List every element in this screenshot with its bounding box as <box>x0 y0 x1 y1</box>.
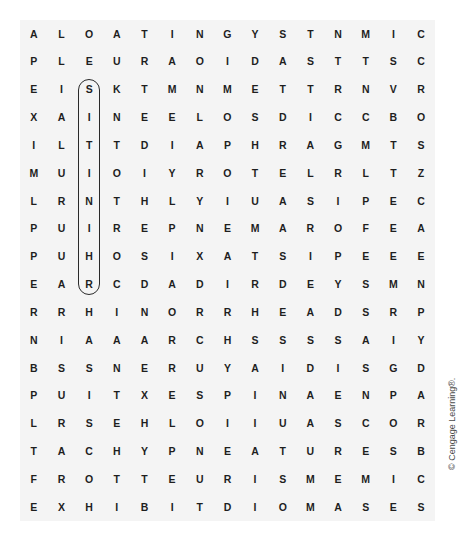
grid-letter[interactable]: U <box>241 187 269 215</box>
grid-letter[interactable]: O <box>186 48 214 76</box>
grid-letter[interactable]: O <box>407 103 435 131</box>
grid-letter[interactable]: R <box>324 76 352 104</box>
grid-letter[interactable]: P <box>352 187 380 215</box>
grid-letter[interactable]: A <box>214 243 242 271</box>
grid-letter[interactable]: X <box>131 382 159 410</box>
grid-letter[interactable]: H <box>241 298 269 326</box>
grid-letter[interactable]: N <box>103 103 131 131</box>
grid-letter[interactable]: R <box>297 215 325 243</box>
grid-letter[interactable]: S <box>352 354 380 382</box>
grid-letter[interactable]: G <box>380 354 408 382</box>
grid-letter[interactable]: M <box>380 270 408 298</box>
grid-letter[interactable]: B <box>20 354 48 382</box>
grid-letter[interactable]: A <box>324 493 352 521</box>
grid-letter[interactable]: S <box>297 187 325 215</box>
grid-letter[interactable]: R <box>158 354 186 382</box>
grid-letter[interactable]: E <box>380 187 408 215</box>
grid-letter[interactable]: R <box>48 298 76 326</box>
grid-letter[interactable]: A <box>158 270 186 298</box>
grid-letter[interactable]: E <box>158 465 186 493</box>
grid-letter[interactable]: R <box>324 159 352 187</box>
grid-letter[interactable]: N <box>103 354 131 382</box>
grid-letter[interactable]: R <box>269 131 297 159</box>
grid-letter[interactable]: E <box>324 465 352 493</box>
grid-letter[interactable]: I <box>75 215 103 243</box>
grid-letter[interactable]: P <box>20 243 48 271</box>
grid-letter[interactable]: A <box>297 131 325 159</box>
grid-letter[interactable]: T <box>75 131 103 159</box>
grid-letter[interactable]: E <box>131 215 159 243</box>
grid-letter[interactable]: C <box>407 48 435 76</box>
grid-letter[interactable]: E <box>407 243 435 271</box>
grid-letter[interactable]: E <box>269 159 297 187</box>
grid-letter[interactable]: I <box>103 493 131 521</box>
grid-letter[interactable]: T <box>20 437 48 465</box>
grid-letter[interactable]: R <box>214 298 242 326</box>
grid-letter[interactable]: R <box>407 76 435 104</box>
grid-letter[interactable]: M <box>20 159 48 187</box>
grid-letter[interactable]: R <box>214 465 242 493</box>
grid-letter[interactable]: T <box>131 20 159 48</box>
grid-letter[interactable]: T <box>269 76 297 104</box>
grid-letter[interactable]: I <box>324 354 352 382</box>
grid-letter[interactable]: T <box>186 493 214 521</box>
grid-letter[interactable]: T <box>352 48 380 76</box>
grid-letter[interactable]: R <box>380 298 408 326</box>
grid-letter[interactable]: C <box>75 437 103 465</box>
grid-letter[interactable]: Y <box>324 270 352 298</box>
grid-letter[interactable]: N <box>75 187 103 215</box>
grid-letter[interactable]: A <box>241 354 269 382</box>
grid-letter[interactable]: E <box>352 243 380 271</box>
grid-letter[interactable]: T <box>297 76 325 104</box>
grid-letter[interactable]: I <box>158 493 186 521</box>
grid-letter[interactable]: E <box>380 215 408 243</box>
grid-letter[interactable]: P <box>214 131 242 159</box>
grid-letter[interactable]: T <box>380 159 408 187</box>
grid-letter[interactable]: T <box>103 187 131 215</box>
grid-letter[interactable]: A <box>269 48 297 76</box>
grid-letter[interactable]: O <box>158 298 186 326</box>
grid-letter[interactable]: P <box>158 215 186 243</box>
grid-letter[interactable]: R <box>186 298 214 326</box>
grid-letter[interactable]: H <box>131 187 159 215</box>
grid-letter[interactable]: M <box>352 131 380 159</box>
grid-letter[interactable]: D <box>297 354 325 382</box>
grid-letter[interactable]: T <box>103 131 131 159</box>
grid-letter[interactable]: D <box>269 103 297 131</box>
grid-letter[interactable]: I <box>158 20 186 48</box>
grid-letter[interactable]: I <box>75 159 103 187</box>
grid-letter[interactable]: P <box>380 382 408 410</box>
grid-letter[interactable]: U <box>48 159 76 187</box>
grid-letter[interactable]: P <box>20 215 48 243</box>
grid-letter[interactable]: U <box>103 48 131 76</box>
grid-letter[interactable]: E <box>380 243 408 271</box>
grid-letter[interactable]: O <box>214 159 242 187</box>
grid-letter[interactable]: S <box>352 270 380 298</box>
grid-letter[interactable]: M <box>158 76 186 104</box>
grid-letter[interactable]: T <box>241 159 269 187</box>
grid-letter[interactable]: D <box>269 270 297 298</box>
grid-letter[interactable]: O <box>269 493 297 521</box>
grid-letter[interactable]: A <box>158 48 186 76</box>
grid-letter[interactable]: C <box>186 326 214 354</box>
grid-letter[interactable]: A <box>20 20 48 48</box>
grid-letter[interactable]: A <box>269 187 297 215</box>
grid-letter[interactable]: D <box>324 298 352 326</box>
grid-letter[interactable]: S <box>352 493 380 521</box>
grid-letter[interactable]: C <box>103 270 131 298</box>
grid-letter[interactable]: I <box>75 382 103 410</box>
grid-letter[interactable]: E <box>103 410 131 438</box>
grid-letter[interactable]: E <box>297 270 325 298</box>
grid-letter[interactable]: A <box>103 20 131 48</box>
grid-letter[interactable]: E <box>380 493 408 521</box>
grid-letter[interactable]: I <box>20 131 48 159</box>
grid-letter[interactable]: O <box>103 159 131 187</box>
grid-letter[interactable]: H <box>103 437 131 465</box>
grid-letter[interactable]: L <box>158 410 186 438</box>
grid-letter[interactable]: S <box>269 20 297 48</box>
grid-letter[interactable]: S <box>407 131 435 159</box>
grid-letter[interactable]: D <box>407 354 435 382</box>
grid-letter[interactable]: M <box>352 465 380 493</box>
grid-letter[interactable]: I <box>214 270 242 298</box>
grid-letter[interactable]: L <box>48 131 76 159</box>
